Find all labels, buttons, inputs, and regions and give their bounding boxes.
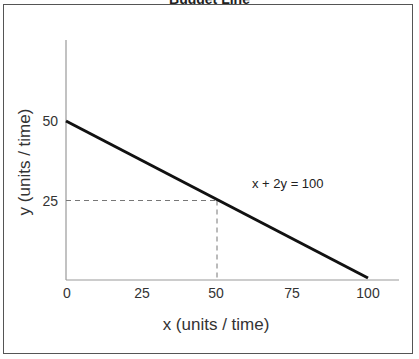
- x-tick-75: 75: [284, 285, 300, 301]
- x-tick-25: 25: [134, 285, 150, 301]
- y-tick-50: 50: [42, 113, 58, 129]
- x-tick-50: 50: [208, 285, 224, 301]
- chart-plot: 50 25 0 25 50 75 100 x (units / time) y …: [0, 0, 419, 359]
- y-tick-25: 25: [42, 193, 58, 209]
- x-axis-label: x (units / time): [163, 315, 270, 334]
- equation-annotation: x + 2y = 100: [252, 176, 324, 191]
- x-tick-0: 0: [63, 285, 71, 301]
- budget-line: [66, 121, 368, 278]
- y-axis-label: y (units / time): [15, 109, 34, 216]
- x-tick-100: 100: [356, 285, 380, 301]
